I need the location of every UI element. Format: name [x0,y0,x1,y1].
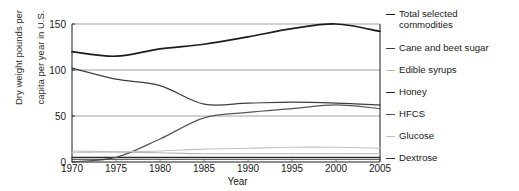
legend-label: Edible syrups [399,64,457,75]
legend-swatch-icon [386,48,395,49]
legend-item-cane-and-beet-sugar[interactable]: Cane and beet sugar [386,42,489,53]
x-tick-label-2000: 2000 [325,163,347,174]
legend-item-honey[interactable]: Honey [386,86,427,97]
legend-item-glucose[interactable]: Glucose [386,130,434,141]
chart-legend: Total selected commoditiesCane and beet … [386,0,519,191]
legend-item-edible-syrups[interactable]: Edible syrups [386,64,457,75]
x-tick-label-1975: 1975 [105,163,127,174]
legend-item-hfcs[interactable]: HFCS [386,108,425,119]
legend-label: Cane and beet sugar [399,42,489,53]
x-tick-label-1995: 1995 [281,163,303,174]
legend-label: Dextrose [399,152,437,163]
series-line-cane-and-beet-sugar [72,68,380,105]
legend-label: HFCS [399,108,425,119]
legend-swatch-icon [386,70,395,71]
chart-figure: Dry weight pounds per capita per year in… [0,0,519,191]
legend-label: Glucose [399,130,434,141]
legend-item-total-selected-commodities[interactable]: Total selected commodities [386,8,458,30]
legend-swatch-icon [386,158,395,159]
legend-swatch-icon [386,114,395,115]
x-tick-label-1985: 1985 [193,163,215,174]
legend-label: Honey [399,86,427,97]
x-tick-label-1980: 1980 [149,163,171,174]
legend-swatch-icon [386,92,395,93]
legend-item-dextrose[interactable]: Dextrose [386,152,437,163]
series-line-glucose [72,147,380,153]
series-line-total-selected-commodities [72,24,380,56]
legend-swatch-icon [386,14,395,15]
x-tick-label-1970: 1970 [61,163,83,174]
legend-label: Total selected commodities [399,8,458,30]
x-tick-label-1990: 1990 [237,163,259,174]
legend-swatch-icon [386,136,395,137]
